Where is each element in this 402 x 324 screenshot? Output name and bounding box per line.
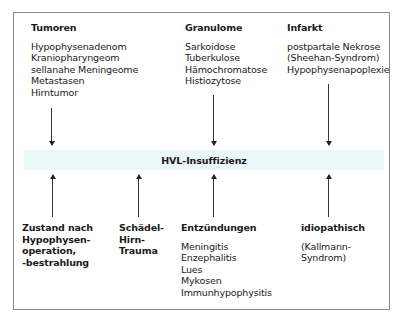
list-item: Syndrom) [301, 252, 365, 264]
title-line: Trauma [119, 245, 164, 257]
title-line: Zustand nach [22, 222, 93, 234]
group-zustand-nach-op: Zustand nach Hypophysen- operation, -bes… [22, 222, 93, 275]
list-item: Enzephalitis [181, 252, 272, 264]
group-granulome: Granulome Sarkoidose Tuberkulose Hämochr… [185, 22, 267, 87]
arrow-up-trauma [138, 175, 139, 217]
list-item: Sarkoidose [185, 41, 267, 53]
list-item: sellanahe Meningeome [31, 64, 138, 76]
group-title: Infarkt [287, 22, 389, 34]
list-item: Histiozytose [185, 75, 267, 87]
list-item: Hypophysenadenom [31, 41, 138, 53]
list-item: Kraniopharyngeom [31, 52, 138, 64]
arrow-down-granulome [213, 95, 214, 145]
group-title: Entzündungen [181, 222, 272, 234]
arrow-up-entzuendungen [213, 175, 214, 217]
group-infarkt: Infarkt postpartale Nekrose (Sheehan-Syn… [287, 22, 389, 75]
title-line: Hypophysen- [22, 234, 93, 246]
list-item: Hirntumor [31, 87, 138, 99]
arrow-up-idiopathisch [328, 175, 329, 217]
group-title: Granulome [185, 22, 267, 34]
list-item: Lues [181, 264, 272, 276]
list-item: Hämochromatose [185, 64, 267, 76]
group-schaedel-hirn-trauma: Schädel- Hirn- Trauma [119, 222, 164, 264]
group-tumoren: Tumoren Hypophysenadenom Kraniopharyngeo… [31, 22, 138, 99]
list-item: Immunhypophysitis [181, 287, 272, 299]
list-item: Mykosen [181, 275, 272, 287]
list-item: postpartale Nekrose [287, 41, 389, 53]
group-idiopathisch: idiopathisch (Kallmann- Syndrom) [301, 222, 365, 264]
title-line: Hirn- [119, 234, 164, 246]
list-item: Meningitis [181, 241, 272, 253]
arrow-down-tumoren [51, 108, 52, 145]
title-line: idiopathisch [301, 222, 365, 234]
list-item: Tuberkulose [185, 52, 267, 64]
list-item: (Kallmann- [301, 241, 365, 253]
center-label: HVL-Insuffizienz [161, 155, 246, 166]
arrow-up-zustand [52, 175, 53, 217]
group-title: idiopathisch [301, 222, 365, 234]
list-item: (Sheehan-Syndrom) [287, 52, 389, 64]
group-title: Schädel- Hirn- Trauma [119, 222, 164, 257]
title-line: Entzündungen [181, 222, 272, 234]
arrow-down-infarkt [328, 84, 329, 145]
title-line: -bestrahlung [22, 257, 93, 269]
title-line: Schädel- [119, 222, 164, 234]
list-item: Metastasen [31, 75, 138, 87]
group-title: Tumoren [31, 22, 138, 34]
list-item: Hypophysenapoplexie [287, 64, 389, 76]
group-entzuendungen: Entzündungen Meningitis Enzephalitis Lue… [181, 222, 272, 299]
center-band: HVL-Insuffizienz [24, 150, 384, 170]
group-title: Zustand nach Hypophysen- operation, -bes… [22, 222, 93, 268]
title-line: operation, [22, 245, 93, 257]
